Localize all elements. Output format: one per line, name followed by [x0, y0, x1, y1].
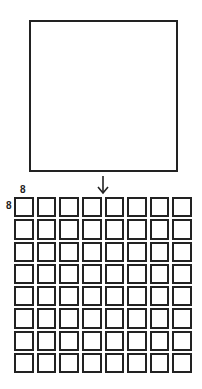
- grid-cell: [127, 286, 147, 306]
- grid-cell: [150, 219, 170, 239]
- grid-cell: [59, 197, 79, 217]
- grid-cell: [14, 308, 34, 328]
- grid-cell: [172, 219, 192, 239]
- grid-cell: [82, 353, 102, 373]
- grid-cell: [14, 331, 34, 351]
- grid-cell: [172, 331, 192, 351]
- grid-cell: [37, 197, 57, 217]
- grid-cell: [150, 286, 170, 306]
- output-grid: [14, 197, 192, 373]
- grid-cell: [82, 242, 102, 262]
- grid-cell: [150, 331, 170, 351]
- grid-cell: [150, 308, 170, 328]
- grid-cell: [59, 219, 79, 239]
- grid-cell: [37, 219, 57, 239]
- input-square: [29, 20, 178, 172]
- grid-cell: [150, 353, 170, 373]
- grid-cell: [59, 308, 79, 328]
- grid-cell: [127, 264, 147, 284]
- grid-cell: [14, 264, 34, 284]
- grid-cell: [105, 353, 125, 373]
- grid-cell: [59, 264, 79, 284]
- grid-cell: [14, 197, 34, 217]
- grid-column-count-label: 8: [20, 184, 26, 195]
- grid-cell: [14, 286, 34, 306]
- grid-cell: [127, 308, 147, 328]
- grid-cell: [105, 331, 125, 351]
- grid-cell: [172, 264, 192, 284]
- grid-cell: [82, 286, 102, 306]
- grid-row-count-label: 8: [6, 200, 12, 211]
- grid-cell: [37, 308, 57, 328]
- grid-cell: [82, 219, 102, 239]
- grid-cell: [150, 264, 170, 284]
- grid-cell: [172, 286, 192, 306]
- grid-cell: [105, 197, 125, 217]
- grid-cell: [37, 331, 57, 351]
- grid-cell: [127, 197, 147, 217]
- grid-cell: [59, 353, 79, 373]
- down-arrow-icon: [95, 175, 111, 195]
- grid-cell: [82, 331, 102, 351]
- grid-cell: [59, 242, 79, 262]
- grid-cell: [127, 219, 147, 239]
- grid-cell: [127, 353, 147, 373]
- grid-cell: [59, 286, 79, 306]
- grid-cell: [37, 353, 57, 373]
- grid-cell: [105, 242, 125, 262]
- grid-cell: [37, 286, 57, 306]
- grid-cell: [105, 219, 125, 239]
- grid-cell: [82, 264, 102, 284]
- grid-cell: [82, 308, 102, 328]
- grid-cell: [105, 264, 125, 284]
- grid-cell: [150, 197, 170, 217]
- grid-cell: [82, 197, 102, 217]
- grid-cell: [127, 331, 147, 351]
- grid-cell: [105, 286, 125, 306]
- grid-cell: [14, 242, 34, 262]
- grid-cell: [37, 242, 57, 262]
- grid-cell: [59, 331, 79, 351]
- grid-cell: [150, 242, 170, 262]
- grid-cell: [172, 308, 192, 328]
- grid-cell: [127, 242, 147, 262]
- grid-cell: [172, 353, 192, 373]
- grid-cell: [105, 308, 125, 328]
- grid-cell: [172, 242, 192, 262]
- grid-cell: [14, 219, 34, 239]
- grid-cell: [172, 197, 192, 217]
- grid-cell: [37, 264, 57, 284]
- grid-cell: [14, 353, 34, 373]
